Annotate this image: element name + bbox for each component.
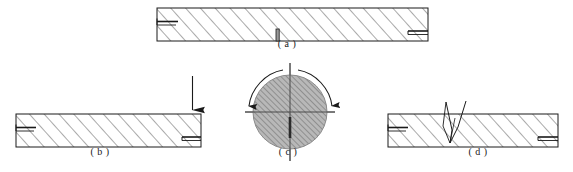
panel-d-bar-group xyxy=(388,101,558,147)
panel-b-bar-body xyxy=(16,114,201,147)
panel-b-bar-group xyxy=(16,114,201,147)
panel-a-bar-group xyxy=(157,8,428,41)
panel-b-label: ( b ) xyxy=(80,146,120,157)
panel-c-label: ( c ) xyxy=(268,146,308,157)
panel-a-label: ( a ) xyxy=(267,38,307,49)
panel-d-label: ( d ) xyxy=(458,146,498,157)
technical-diagram-figure: ( a ) ( b ) ( c ) ( d ) xyxy=(0,0,573,172)
panel-d-bar-body xyxy=(388,114,558,147)
panel-a-bar-body xyxy=(157,8,428,41)
